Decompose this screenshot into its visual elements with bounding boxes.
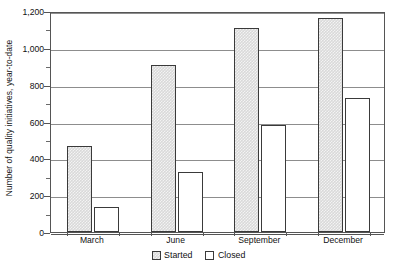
bar-march-started xyxy=(67,146,92,232)
y-tick-label: 1,200 xyxy=(10,8,44,17)
legend-label-closed: Closed xyxy=(218,251,245,260)
bar-december-closed xyxy=(345,98,370,232)
y-tick-label: 200 xyxy=(10,192,44,201)
bar-december-started xyxy=(318,18,343,232)
bar-march-closed xyxy=(94,207,119,232)
y-tick-label: 600 xyxy=(10,119,44,128)
x-category-label-june: June xyxy=(136,236,216,245)
y-tick-mark-major xyxy=(44,233,50,234)
legend-swatch-closed xyxy=(205,251,214,260)
bar-june-started xyxy=(151,65,176,232)
x-category-label-march: March xyxy=(52,236,132,245)
bar-june-closed xyxy=(178,172,203,232)
y-tick-label: 1,000 xyxy=(10,45,44,54)
x-category-label-september: September xyxy=(219,236,299,245)
legend-entry-started[interactable]: Started xyxy=(152,251,193,260)
plot-inner xyxy=(51,13,384,232)
plot-area xyxy=(50,12,385,233)
legend-entry-closed[interactable]: Closed xyxy=(205,251,245,260)
bar-september-started xyxy=(234,28,259,232)
y-tick-label: 800 xyxy=(10,82,44,91)
bar-september-closed xyxy=(261,125,286,232)
legend-swatch-started xyxy=(152,251,161,260)
chart-legend: StartedClosed xyxy=(0,251,397,260)
y-tick-label: 0 xyxy=(10,229,44,238)
legend-label-started: Started xyxy=(164,251,192,260)
y-tick-label: 400 xyxy=(10,155,44,164)
x-category-label-december: December xyxy=(303,236,383,245)
gridline xyxy=(51,13,384,14)
bar-chart-figure: Number of quality initiatives, year-to-d… xyxy=(0,0,397,272)
